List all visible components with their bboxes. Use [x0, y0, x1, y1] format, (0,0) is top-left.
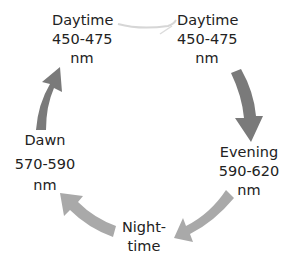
node-dawn: Dawn 570-590 nm [14, 130, 76, 196]
node-title: Evening [216, 143, 282, 162]
node-unit: nm [177, 49, 237, 68]
node-nighttime: Night- time [118, 218, 170, 256]
arrow-dawn-to-daytime [36, 67, 62, 130]
arrow-daytime-to-evening [231, 69, 263, 142]
connector-daytime-to-daytime [118, 20, 176, 28]
node-title: Night- [118, 218, 170, 237]
node-unit: nm [216, 181, 282, 200]
node-unit: nm [52, 49, 112, 68]
node-range: 450-475 [177, 30, 237, 49]
node-title: Dawn [14, 130, 76, 151]
node-daytime-right: Daytime 450-475 nm [177, 11, 237, 68]
node-range: 450-475 [52, 30, 112, 49]
node-title: Daytime [177, 11, 237, 30]
node-range: 590-620 [216, 162, 282, 181]
node-title: Daytime [52, 11, 112, 30]
node-unit: nm [14, 175, 76, 196]
node-daytime-left: Daytime 450-475 nm [52, 11, 112, 68]
node-title-cont: time [118, 237, 170, 256]
node-evening: Evening 590-620 nm [216, 143, 282, 200]
node-range: 570-590 [14, 154, 76, 175]
arrow-nighttime-to-dawn [60, 193, 116, 237]
